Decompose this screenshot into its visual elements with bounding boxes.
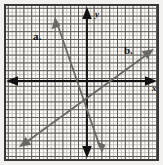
x-axis-label: x bbox=[152, 84, 157, 93]
graph-figure: y x a. b. bbox=[0, 0, 163, 165]
line-b-label: b. bbox=[124, 45, 133, 56]
y-axis-label: y bbox=[95, 10, 99, 19]
grid-major-lines bbox=[5, 5, 158, 160]
coordinate-plane-svg bbox=[0, 0, 163, 165]
line-a-label: a. bbox=[33, 31, 41, 42]
